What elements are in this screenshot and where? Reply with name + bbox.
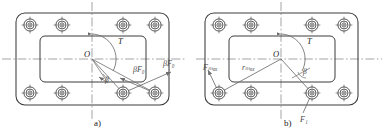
- caption-a: a): [94, 118, 101, 128]
- panel-a-force-label-1: βF₀: [132, 65, 145, 74]
- panel-a-angle-label: β: [104, 75, 109, 84]
- panel-b-force-label-fmax: Fₘₐₓ: [202, 63, 218, 72]
- panel-a-center-label: O: [84, 49, 90, 59]
- panel-b-radius-label: rₘₐₓ: [242, 63, 255, 72]
- panel-b-force-label-f1: F₁: [299, 115, 308, 124]
- panel-a-force-label-2: βF₀: [162, 59, 175, 68]
- panel-b-center-label: O: [273, 49, 279, 59]
- diagram-svg: O T β βF₀ βF₀ O T β: [0, 0, 385, 140]
- figure-canvas: O T β βF₀ βF₀ O T β: [0, 0, 385, 140]
- caption-b: b): [284, 118, 292, 128]
- panel-b-angle-label: β: [302, 67, 307, 76]
